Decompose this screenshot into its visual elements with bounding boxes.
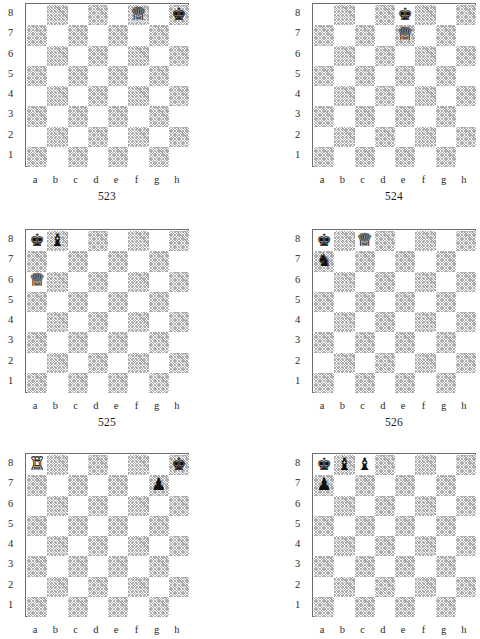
square-e4[interactable] xyxy=(395,536,415,556)
square-d6[interactable] xyxy=(88,272,108,292)
square-b8[interactable] xyxy=(334,5,354,25)
square-h2[interactable] xyxy=(169,353,189,373)
square-b1[interactable] xyxy=(47,373,67,393)
square-h1[interactable] xyxy=(169,373,189,393)
square-h1[interactable] xyxy=(456,597,476,617)
square-e1[interactable] xyxy=(108,597,128,617)
square-d1[interactable] xyxy=(375,373,395,393)
square-c5[interactable] xyxy=(68,66,88,86)
square-e6[interactable] xyxy=(395,496,415,516)
square-d2[interactable] xyxy=(88,127,108,147)
square-a2[interactable] xyxy=(314,127,334,147)
square-a6[interactable] xyxy=(314,496,334,516)
square-d8[interactable] xyxy=(88,231,108,251)
square-d5[interactable] xyxy=(375,66,395,86)
square-b6[interactable] xyxy=(47,272,67,292)
square-a4[interactable] xyxy=(27,86,47,106)
square-b3[interactable] xyxy=(47,332,67,352)
square-a3[interactable] xyxy=(27,332,47,352)
square-e1[interactable] xyxy=(395,597,415,617)
square-b5[interactable] xyxy=(334,66,354,86)
square-d3[interactable] xyxy=(88,332,108,352)
square-b2[interactable] xyxy=(47,353,67,373)
square-g6[interactable] xyxy=(149,272,169,292)
square-f8[interactable] xyxy=(415,455,435,475)
square-b1[interactable] xyxy=(334,597,354,617)
square-f6[interactable] xyxy=(128,496,148,516)
square-e7[interactable] xyxy=(395,251,415,271)
square-a7[interactable] xyxy=(314,25,334,45)
square-d8[interactable] xyxy=(375,455,395,475)
square-g6[interactable] xyxy=(436,272,456,292)
square-g6[interactable] xyxy=(149,496,169,516)
square-c1[interactable] xyxy=(355,147,375,167)
square-g7[interactable] xyxy=(436,251,456,271)
square-d5[interactable] xyxy=(375,516,395,536)
square-g4[interactable] xyxy=(436,536,456,556)
square-f2[interactable] xyxy=(128,577,148,597)
square-h4[interactable] xyxy=(456,312,476,332)
square-f2[interactable] xyxy=(415,577,435,597)
square-a7[interactable] xyxy=(27,475,47,495)
square-a3[interactable] xyxy=(314,332,334,352)
square-g2[interactable] xyxy=(149,127,169,147)
square-h6[interactable] xyxy=(169,496,189,516)
square-h3[interactable] xyxy=(456,106,476,126)
square-g2[interactable] xyxy=(149,353,169,373)
square-d1[interactable] xyxy=(88,147,108,167)
square-e7[interactable] xyxy=(108,251,128,271)
square-f4[interactable] xyxy=(415,536,435,556)
square-f6[interactable] xyxy=(415,46,435,66)
square-b2[interactable] xyxy=(334,577,354,597)
square-d6[interactable] xyxy=(375,496,395,516)
square-g3[interactable] xyxy=(149,106,169,126)
square-a6[interactable] xyxy=(314,46,334,66)
square-f4[interactable] xyxy=(415,86,435,106)
square-d4[interactable] xyxy=(375,536,395,556)
square-e2[interactable] xyxy=(395,577,415,597)
square-b6[interactable] xyxy=(334,46,354,66)
square-a5[interactable] xyxy=(27,516,47,536)
square-g8[interactable] xyxy=(436,231,456,251)
square-f1[interactable] xyxy=(128,147,148,167)
square-e3[interactable] xyxy=(108,556,128,576)
square-f7[interactable] xyxy=(128,251,148,271)
square-d7[interactable] xyxy=(88,475,108,495)
square-c4[interactable] xyxy=(68,312,88,332)
square-a2[interactable] xyxy=(314,353,334,373)
square-c5[interactable] xyxy=(68,292,88,312)
square-c5[interactable] xyxy=(68,516,88,536)
square-b7[interactable] xyxy=(47,475,67,495)
square-b1[interactable] xyxy=(334,147,354,167)
square-f2[interactable] xyxy=(128,353,148,373)
square-e7[interactable] xyxy=(108,25,128,45)
square-h2[interactable] xyxy=(169,577,189,597)
square-g3[interactable] xyxy=(149,332,169,352)
square-e6[interactable] xyxy=(108,272,128,292)
square-b5[interactable] xyxy=(47,516,67,536)
square-d5[interactable] xyxy=(88,292,108,312)
square-c2[interactable] xyxy=(355,577,375,597)
square-b6[interactable] xyxy=(47,46,67,66)
square-h6[interactable] xyxy=(456,496,476,516)
square-g2[interactable] xyxy=(436,353,456,373)
square-f4[interactable] xyxy=(128,536,148,556)
black-king-a8[interactable]: ♚ xyxy=(27,231,47,251)
square-d6[interactable] xyxy=(88,46,108,66)
square-c4[interactable] xyxy=(355,86,375,106)
square-a4[interactable] xyxy=(314,312,334,332)
square-b2[interactable] xyxy=(334,127,354,147)
square-e3[interactable] xyxy=(108,106,128,126)
square-a5[interactable] xyxy=(314,516,334,536)
square-d6[interactable] xyxy=(88,496,108,516)
square-c5[interactable] xyxy=(355,66,375,86)
square-d2[interactable] xyxy=(375,577,395,597)
square-a4[interactable] xyxy=(27,536,47,556)
square-h7[interactable] xyxy=(169,475,189,495)
square-b6[interactable] xyxy=(334,496,354,516)
square-h5[interactable] xyxy=(169,292,189,312)
square-d1[interactable] xyxy=(375,147,395,167)
square-a4[interactable] xyxy=(314,86,334,106)
square-a6[interactable] xyxy=(27,46,47,66)
black-king-a8[interactable]: ♚ xyxy=(314,455,334,475)
